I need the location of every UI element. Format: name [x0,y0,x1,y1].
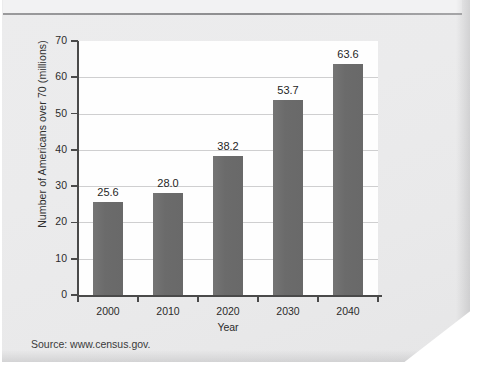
y-tick-label: 50 [33,107,67,119]
x-tick-label: 2040 [322,305,374,317]
y-tick-label: 60 [33,70,67,82]
x-tick-mark [377,295,379,302]
scanned-page: Number of Americans over 70 (millions) 7… [0,0,484,379]
bar [213,156,243,295]
bar [153,193,183,295]
x-tick-mark [137,295,139,302]
y-tick-mark [71,76,78,78]
y-tick-label: 40 [33,143,67,155]
x-tick-mark [317,295,319,302]
y-axis-title: Number of Americans over 70 (millions) [36,24,48,244]
x-tick-label: 2030 [262,305,314,317]
bar-value-label: 63.6 [321,48,375,60]
y-tick-mark [71,185,78,187]
y-tick-mark [71,258,78,260]
source-note: Source: www.census.gov. [31,338,150,350]
bar-value-label: 25.6 [81,186,135,198]
bar-chart: Number of Americans over 70 (millions) 7… [0,0,484,379]
x-tick-mark [77,295,79,302]
y-tick-label: 70 [33,34,67,46]
x-tick-mark [257,295,259,302]
y-tick-label: 30 [33,179,67,191]
y-tick-mark [71,113,78,115]
bar-value-label: 53.7 [261,84,315,96]
y-tick-label: 10 [33,252,67,264]
bar [93,202,123,295]
y-tick-mark [71,40,78,42]
x-tick-label: 2000 [82,305,134,317]
bar-value-label: 28.0 [141,177,195,189]
x-axis-title: Year [78,321,378,333]
y-tick-label: 20 [33,215,67,227]
x-tick-label: 2020 [202,305,254,317]
y-tick-mark [71,222,78,224]
y-tick-label: 0 [33,288,67,300]
x-tick-label: 2010 [142,305,194,317]
bar [273,100,303,295]
x-tick-mark [197,295,199,302]
bar [333,64,363,295]
x-axis-line [77,295,382,297]
bar-value-label: 38.2 [201,140,255,152]
y-tick-mark [71,149,78,151]
